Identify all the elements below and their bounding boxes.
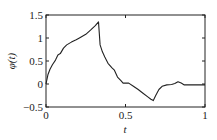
x-tick-label: 1 [202,109,208,121]
y-tick-label: 1 [38,32,44,44]
y-tick-label: 0.5 [29,55,43,67]
y-axis-label: φ(t) [5,52,18,69]
line-chart: 00.51 −0.500.511.5 t φ(t) [0,0,217,140]
x-tick-label: 0.5 [119,109,133,121]
plot-border [46,15,205,107]
y-axis-tick-labels: −0.500.511.5 [23,9,43,113]
x-axis-tick-labels: 00.51 [43,109,208,121]
y-axis-ticks [46,15,205,107]
series-line-phi [46,22,205,101]
y-tick-label: −0.5 [23,101,43,113]
plot-frame [46,15,205,107]
y-tick-label: 1.5 [29,9,43,21]
x-axis-label: t [123,123,127,135]
y-tick-label: 0 [38,78,44,90]
x-tick-label: 0 [43,109,49,121]
x-axis-ticks [46,15,205,107]
